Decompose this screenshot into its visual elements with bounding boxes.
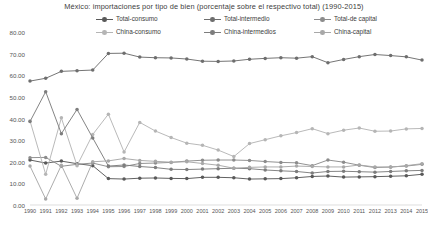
data-point <box>28 120 32 124</box>
y-axis-tick-label: 80.00 <box>10 29 25 36</box>
series-china-intermedios <box>28 90 424 175</box>
data-point <box>310 55 314 59</box>
data-point <box>420 58 424 62</box>
x-axis-tick-label: 2008 <box>306 208 318 214</box>
data-point <box>216 176 220 180</box>
data-point <box>216 163 220 167</box>
data-point <box>122 51 126 55</box>
chart-container: México: importaciones por tipo de bien (… <box>0 0 428 233</box>
data-point <box>248 58 252 62</box>
data-point <box>91 160 95 164</box>
data-point <box>295 170 299 174</box>
data-point <box>342 165 346 169</box>
legend-item-total-de-capital[interactable]: Total-de capital <box>314 13 414 26</box>
data-point <box>358 163 362 167</box>
data-point <box>122 177 126 181</box>
data-point <box>91 136 95 140</box>
y-axis-tick-label: 50.00 <box>10 93 25 100</box>
data-point <box>279 169 283 173</box>
legend-marker-icon <box>314 16 331 23</box>
data-point <box>373 130 377 134</box>
series-total-de-capital <box>28 156 424 170</box>
data-point <box>248 159 252 163</box>
data-point <box>185 168 189 172</box>
data-point <box>28 164 32 168</box>
x-axis-tick-label: 1992 <box>55 208 67 214</box>
x-axis-tick-label: 2006 <box>275 208 287 214</box>
data-point <box>201 176 205 180</box>
data-point <box>138 165 142 169</box>
data-point <box>122 157 126 161</box>
data-point <box>248 142 252 146</box>
data-point <box>232 176 236 180</box>
legend-label: Total-consumo <box>116 16 158 22</box>
y-axis-tick-label: 20.00 <box>10 158 25 165</box>
data-point <box>138 176 142 180</box>
data-point <box>389 170 393 174</box>
y-axis-tick-label: 40.00 <box>10 115 25 122</box>
series-line <box>30 157 422 167</box>
series-line <box>30 160 422 179</box>
y-axis-tick-label: 10.00 <box>10 180 25 187</box>
x-axis-tick-label: 1998 <box>149 208 161 214</box>
x-axis-tick-label: 1999 <box>165 208 177 214</box>
data-point <box>75 197 79 201</box>
legend-label: Total-intermedio <box>224 16 269 22</box>
legend-label: Total-de capital <box>334 16 377 22</box>
data-point <box>263 57 267 61</box>
data-point <box>107 112 111 116</box>
data-point <box>122 150 126 154</box>
data-point <box>405 174 409 178</box>
data-point <box>373 53 377 57</box>
data-point <box>358 55 362 59</box>
data-point <box>420 173 424 177</box>
x-axis-tick-label: 1994 <box>87 208 99 214</box>
data-point <box>185 160 189 164</box>
data-point <box>279 134 283 138</box>
legend-item-total-intermedio[interactable]: Total-intermedio <box>204 13 314 26</box>
data-point <box>169 160 173 164</box>
data-point <box>154 160 158 164</box>
data-point <box>107 164 111 168</box>
data-point <box>154 56 158 60</box>
data-point <box>44 197 48 201</box>
data-point <box>420 162 424 166</box>
data-point <box>138 159 142 163</box>
data-point <box>420 169 424 173</box>
data-point <box>169 177 173 181</box>
data-point <box>122 163 126 167</box>
data-point <box>60 70 64 74</box>
legend-marker-icon <box>204 16 221 23</box>
x-axis-tick-label: 2009 <box>322 208 334 214</box>
data-point <box>232 158 236 162</box>
x-axis-tick-label: 2015 <box>416 208 428 214</box>
x-axis-tick-label: 2007 <box>290 208 302 214</box>
data-point <box>169 168 173 172</box>
data-point <box>185 141 189 145</box>
data-point <box>60 159 64 163</box>
x-axis-tick-label: 1997 <box>134 208 146 214</box>
plot-area <box>30 32 422 205</box>
y-axis-tick-label: 30.00 <box>10 137 25 144</box>
series-total-consumo <box>28 158 424 181</box>
data-point <box>138 55 142 59</box>
data-point <box>405 127 409 131</box>
data-point <box>201 144 205 148</box>
data-point <box>342 128 346 132</box>
data-point <box>201 167 205 171</box>
series-total-intermedio <box>28 51 424 82</box>
x-axis-tick-label: 1996 <box>118 208 130 214</box>
x-axis-tick-label: 1993 <box>71 208 83 214</box>
data-point <box>60 116 64 120</box>
data-point <box>389 54 393 58</box>
y-axis-labels: 0.0010.0020.0030.0040.0050.0060.0070.008… <box>0 32 27 205</box>
data-point <box>279 161 283 165</box>
x-axis-labels: 1990199119921993199419951996199719981999… <box>30 208 422 222</box>
data-point <box>358 126 362 129</box>
legend-item-total-consumo[interactable]: Total-consumo <box>96 13 204 26</box>
x-axis-tick-label: 2014 <box>400 208 412 214</box>
data-point <box>44 161 48 165</box>
data-point <box>216 167 220 171</box>
data-point <box>373 170 377 174</box>
data-point <box>389 129 393 133</box>
